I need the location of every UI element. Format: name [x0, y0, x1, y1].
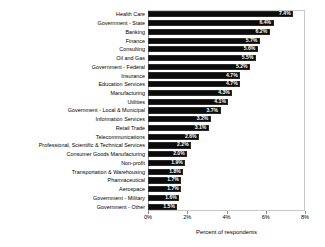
bar-row: Finance5.7% [0, 36, 325, 45]
bar-row: Insurance4.7% [0, 71, 325, 80]
bar: 5.5% [148, 55, 256, 61]
bar-row: Consulting5.6% [0, 45, 325, 54]
bar-fill: 3.2% [148, 116, 211, 122]
x-tick-label: 4% [222, 214, 230, 221]
bar: 7.4% [148, 11, 293, 17]
x-axis: 0%2%4%6%8% [148, 211, 305, 241]
bar-row: Manufacturing4.3% [0, 89, 325, 98]
bar: 5.7% [148, 38, 260, 44]
bar-value-label: 3.1% [195, 125, 207, 130]
bar-row: Oil and Gas5.5% [0, 54, 325, 63]
bar: 4.3% [148, 90, 232, 96]
x-tick-label: 2% [183, 214, 191, 221]
bar: 4.7% [148, 72, 240, 78]
bar-row: Telecommunications2.6% [0, 132, 325, 141]
category-label: Non-profit [121, 160, 145, 166]
bar-fill: 7.4% [148, 11, 293, 17]
bar-fill: 1.8% [148, 169, 183, 175]
category-label: Finance [126, 38, 145, 44]
bar-row: Government - State6.4% [0, 19, 325, 28]
x-tick-label: 6% [262, 214, 270, 221]
bar-value-label: 2.0% [173, 152, 185, 157]
bar-fill: 6.4% [148, 20, 274, 26]
bar-fill: 5.7% [148, 38, 260, 44]
bar-row: Information Services3.2% [0, 115, 325, 124]
category-label: Utilities [127, 99, 145, 105]
bar-value-label: 6.2% [256, 29, 268, 34]
category-label: Manufacturing [111, 90, 145, 96]
bar-value-label: 4.3% [218, 90, 230, 95]
bar-fill: 5.5% [148, 55, 256, 61]
category-label: Retail Trade [116, 125, 145, 131]
category-label: Consulting [119, 46, 145, 52]
bar-row: Transportation & Warehousing1.8% [0, 167, 325, 176]
bar: 1.8% [148, 169, 183, 175]
bar-value-label: 5.7% [246, 38, 258, 43]
category-label: Aerospace [119, 186, 145, 192]
bar-value-label: 2.2% [177, 143, 189, 148]
category-label: Insurance [121, 73, 145, 79]
bar: 6.2% [148, 29, 270, 35]
bar-row: Non-profit1.9% [0, 159, 325, 168]
bar-value-label: 1.8% [169, 169, 181, 174]
bar-row: Government - Local & Municipal3.7% [0, 106, 325, 115]
bar-fill: 4.7% [148, 72, 240, 78]
bar-value-label: 1.9% [171, 160, 183, 165]
bar-value-label: 4.7% [226, 73, 238, 78]
bar-value-label: 2.6% [185, 134, 197, 139]
bar: 3.1% [148, 125, 209, 131]
bar-fill: 2.2% [148, 142, 191, 148]
bar-value-label: 7.4% [279, 12, 291, 17]
bar-row: Professional, Scientific & Technical Ser… [0, 141, 325, 150]
bar-row: Education Services4.7% [0, 80, 325, 89]
bar-row: Aerospace1.7% [0, 185, 325, 194]
bar-fill: 1.7% [148, 186, 181, 192]
category-label: Transportation & Warehousing [72, 169, 145, 175]
bar: 4.7% [148, 81, 240, 87]
bar-value-label: 3.7% [206, 108, 218, 113]
bar-fill: 4.3% [148, 90, 232, 96]
bar: 3.7% [148, 107, 221, 113]
bar: 3.2% [148, 116, 211, 122]
bar: 4.1% [148, 99, 228, 105]
category-label: Pharmaceutical [108, 177, 145, 183]
bar-fill: 1.5% [148, 204, 177, 210]
bar: 1.7% [148, 177, 181, 183]
bar-fill: 1.7% [148, 177, 181, 183]
bar-value-label: 4.1% [214, 99, 226, 104]
bar-fill: 4.7% [148, 81, 240, 87]
bar-fill: 2.0% [148, 151, 187, 157]
bar-value-label: 3.2% [197, 117, 209, 122]
category-label: Professional, Scientific & Technical Ser… [39, 142, 145, 148]
bar-row: Government - Other1.5% [0, 202, 325, 211]
category-label: Oil and Gas [116, 55, 145, 61]
bar: 1.5% [148, 204, 177, 210]
category-label: Government - Federal [92, 64, 145, 70]
bar-fill: 5.6% [148, 46, 258, 52]
x-tick-label: 0% [144, 214, 152, 221]
bar-fill: 1.6% [148, 195, 179, 201]
bar-row: Consumer Goods Manufacturing2.0% [0, 150, 325, 159]
bar-value-label: 1.6% [165, 195, 177, 200]
bar-value-label: 1.5% [163, 204, 175, 209]
category-label: Government - Military [93, 195, 145, 201]
bar-row: Pharmaceutical1.7% [0, 176, 325, 185]
category-label: Banking [125, 29, 145, 35]
category-label: Government - Other [97, 204, 145, 210]
bar-row: Health Care7.4% [0, 10, 325, 19]
bar-row: Government - Federal5.2% [0, 62, 325, 71]
bar-value-label: 5.6% [244, 47, 256, 52]
x-axis-title: Percent of respondents [148, 228, 305, 236]
bar-value-label: 1.7% [167, 186, 179, 191]
category-label: Health Care [116, 11, 145, 17]
bar: 1.7% [148, 186, 181, 192]
bar: 5.6% [148, 46, 258, 52]
bar: 2.0% [148, 151, 187, 157]
bar-row: Government - Military1.6% [0, 194, 325, 203]
bar-fill: 4.1% [148, 99, 228, 105]
bar: 1.6% [148, 195, 179, 201]
bar-row: Utilities4.1% [0, 97, 325, 106]
bar-value-label: 5.5% [242, 55, 254, 60]
category-label: Telecommunications [96, 134, 145, 140]
bar-fill: 1.9% [148, 160, 185, 166]
